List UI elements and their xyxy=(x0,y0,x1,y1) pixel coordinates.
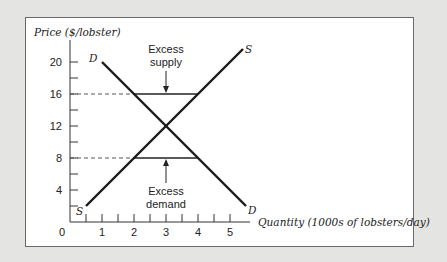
y-tick-16: 16 xyxy=(50,88,62,100)
y-tick-4: 4 xyxy=(56,184,62,196)
y-tick-12: 12 xyxy=(50,120,62,132)
excess-supply-label-line2: supply xyxy=(150,56,182,68)
excess-demand-label-line2: demand xyxy=(146,198,186,210)
excess-demand-label-line1: Excess xyxy=(148,185,184,197)
supply-label-bottom: S xyxy=(76,205,83,217)
excess-demand-arrowhead-icon xyxy=(163,159,169,166)
x-ticks xyxy=(86,214,230,222)
x-tick-3: 3 xyxy=(163,226,169,238)
supply-demand-chart: 20 16 12 8 4 0 1 2 3 4 5 Price ($/lobste… xyxy=(0,0,447,262)
excess-supply-arrowhead-icon xyxy=(163,86,169,93)
y-axis-title: Price ($/lobster) xyxy=(33,26,121,38)
x-tick-5: 5 xyxy=(227,226,233,238)
x-tick-2: 2 xyxy=(131,226,137,238)
x-axis-title: Quantity (1000s of lobsters/day) xyxy=(258,216,430,229)
supply-label-top: S xyxy=(245,43,252,55)
x-tick-4: 4 xyxy=(195,226,201,238)
y-ticks xyxy=(70,62,78,206)
demand-label-top: D xyxy=(88,52,98,64)
supply-curve xyxy=(86,49,243,206)
demand-label-bottom: D xyxy=(247,204,257,216)
origin-label: 0 xyxy=(59,226,65,238)
excess-supply-label-line1: Excess xyxy=(148,43,184,55)
y-tick-20: 20 xyxy=(50,56,62,68)
x-tick-1: 1 xyxy=(99,226,105,238)
y-tick-8: 8 xyxy=(56,152,62,164)
